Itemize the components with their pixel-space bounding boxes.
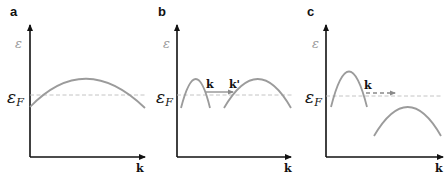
fermi-level-label: εF	[156, 87, 173, 109]
panel-label-b: b	[158, 4, 166, 19]
energy-axis-label: ε	[15, 36, 22, 51]
momentum-axis-label: k	[136, 162, 144, 175]
band-diagram-figure: a ε εF k b ε εF k k' k c ε εF	[0, 0, 448, 179]
initial-state-label: k	[364, 79, 372, 92]
panel-a: a ε εF k	[7, 4, 145, 175]
panel-label-a: a	[10, 4, 18, 19]
final-state-label: k'	[229, 78, 240, 91]
fermi-level-label: εF	[7, 87, 24, 109]
initial-state-label: k	[206, 78, 214, 91]
energy-axis-label: ε	[163, 36, 170, 51]
momentum-axis-label: k	[284, 162, 292, 175]
momentum-axis-label: k	[435, 162, 443, 175]
energy-band	[30, 79, 145, 108]
energy-band-1	[331, 72, 367, 108]
energy-band-2	[374, 107, 441, 136]
panel-label-c: c	[307, 4, 314, 19]
panel-c: c ε εF k k	[305, 4, 443, 175]
fermi-level-label: εF	[305, 87, 322, 109]
panel-b: b ε εF k k' k	[156, 4, 293, 175]
energy-axis-label: ε	[312, 36, 319, 51]
